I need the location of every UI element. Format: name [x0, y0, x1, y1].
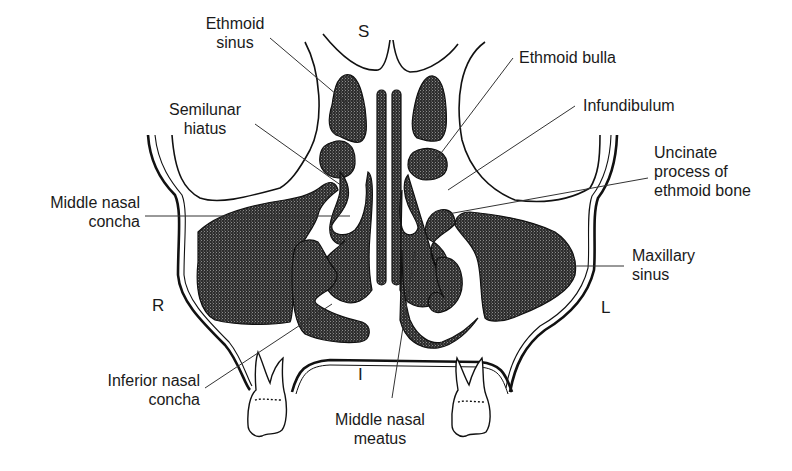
label-ethmoid-sinus: Ethmoid sinus	[190, 14, 280, 52]
orientation-superior: S	[358, 22, 369, 42]
right-ethmoid-bulla	[320, 141, 355, 178]
cranial-floor-outline	[323, 34, 390, 70]
label-ethmoid-bulla: Ethmoid bulla	[519, 48, 616, 67]
label-semilunar-hiatus: Semilunar hiatus	[155, 100, 255, 138]
label-uncinate-process: Uncinate process of ethmoid bone	[654, 143, 751, 200]
label-middle-nasal-meatus: Middle nasal meatus	[315, 410, 445, 448]
left-molar-tooth	[452, 358, 490, 436]
nasal-septum-right	[377, 90, 386, 285]
right-ethmoid-sinus	[329, 75, 366, 143]
cranial-floor-outline-left	[393, 40, 458, 72]
leader-uncinate-process	[448, 178, 648, 214]
orientation-right: R	[152, 296, 164, 316]
orientation-inferior: I	[358, 365, 363, 385]
label-middle-nasal-concha: Middle nasal concha	[18, 193, 140, 231]
label-inferior-nasal-concha: Inferior nasal concha	[78, 371, 200, 409]
label-maxillary-sinus: Maxillary sinus	[632, 246, 695, 284]
nasal-septum-left	[392, 90, 401, 285]
left-ethmoid-sinus	[412, 76, 446, 141]
right-molar-tooth	[248, 352, 287, 436]
left-maxillary-sinus	[455, 212, 576, 321]
orientation-left: L	[601, 298, 610, 318]
label-infundibulum: Infundibulum	[583, 96, 675, 115]
leader-ethmoid-sinus	[270, 38, 350, 106]
